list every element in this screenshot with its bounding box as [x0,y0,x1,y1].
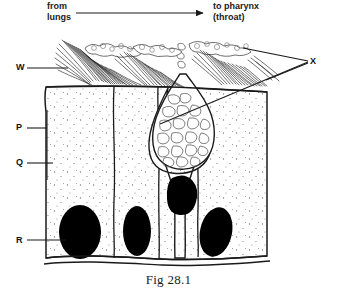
flow-label-to: to pharynx (throat) [213,1,259,23]
label-q: Q [16,158,23,167]
nucleus [59,205,101,259]
flow-from-line1: from [47,1,67,11]
flow-to-line1: to pharynx [213,1,259,11]
label-p: P [16,123,22,132]
figure-canvas: from lungs to pharynx (throat) W P Q R X… [0,0,337,299]
nucleus [167,175,197,215]
epithelium-diagram [0,0,337,299]
figure-caption: Fig 28.1 [0,272,337,288]
mucus-layer [85,42,251,58]
flow-label-from: from lungs [47,1,71,23]
label-w: W [16,63,25,72]
nucleus [123,206,151,256]
label-x: X [310,57,316,66]
flow-to-line2: (throat) [213,12,245,22]
flow-from-line2: lungs [47,12,71,22]
label-r: R [16,236,23,245]
